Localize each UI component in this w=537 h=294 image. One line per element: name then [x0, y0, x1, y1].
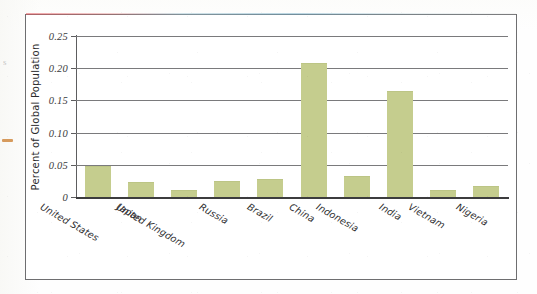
x-axis-label-india: India [378, 201, 404, 222]
x-axis-label-brazil: Brazil [246, 201, 275, 224]
margin-dash-artifact [2, 139, 13, 142]
bar-russia [214, 181, 240, 197]
bar-vietnam [430, 190, 456, 197]
bar-series [76, 36, 508, 197]
y-axis-tick-label: 0.25 [49, 31, 68, 42]
y-axis-title: Percent of Global Population [26, 36, 44, 197]
x-axis-labels: United StatesJapanUnited KingdomRussiaBr… [76, 199, 509, 279]
y-axis-tick-label: 0.20 [49, 63, 68, 74]
x-axis-label-vietnam: Vietnam [406, 201, 447, 231]
bar-china [301, 63, 327, 197]
bar-india [387, 91, 413, 197]
bar-united-states [85, 166, 111, 197]
x-axis-label-indonesia: Indonesia [315, 201, 361, 234]
margin-glyph-artifact: s [3, 57, 7, 67]
bar-japan [128, 182, 154, 197]
y-axis-tick-label: 0.10 [49, 127, 68, 138]
x-axis-label-russia: Russia [198, 201, 231, 226]
y-axis-tick [71, 197, 76, 198]
bar-brazil [257, 179, 283, 197]
x-axis-label-united-kingdom: United Kingdom [115, 201, 188, 249]
y-axis-tick-label: 0.05 [49, 159, 68, 170]
scanned-page: s Percent of Global Population 0.250.200… [0, 0, 537, 294]
y-axis-title-label: Percent of Global Population [30, 43, 41, 190]
bar-nigeria [473, 186, 499, 197]
y-axis-tick-label: 0 [63, 192, 68, 203]
plot-area: 0.250.200.150.100.050 [76, 36, 508, 197]
bar-indonesia [344, 176, 370, 197]
x-axis-label-china: China [288, 201, 317, 224]
y-axis-tick-label: 0.15 [49, 95, 68, 106]
x-axis-label-nigeria: Nigeria [455, 201, 491, 228]
bar-united-kingdom [171, 190, 197, 197]
